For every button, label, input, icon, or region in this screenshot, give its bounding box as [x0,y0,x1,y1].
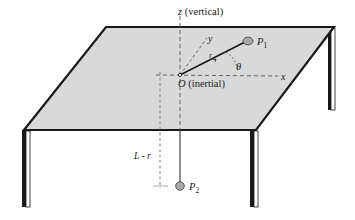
hanging-length-label: L - r [133,151,151,161]
x-axis-label: x [280,71,286,82]
particle-p2 [176,182,185,191]
front-right-leg [250,130,258,207]
z-axis-label: z (vertical) [177,6,224,18]
y-axis-label: y [207,33,213,44]
table-pendulum-diagram: z (vertical) x y O (inertial) r θ P1 P2 … [0,0,355,220]
origin-point [178,73,181,76]
theta-label: θ [236,61,241,72]
front-left-leg [22,130,30,207]
p2-label: P2 [188,181,199,195]
back-right-leg [328,28,335,110]
origin-label: O (inertial) [178,78,225,90]
particle-p1 [243,37,253,45]
